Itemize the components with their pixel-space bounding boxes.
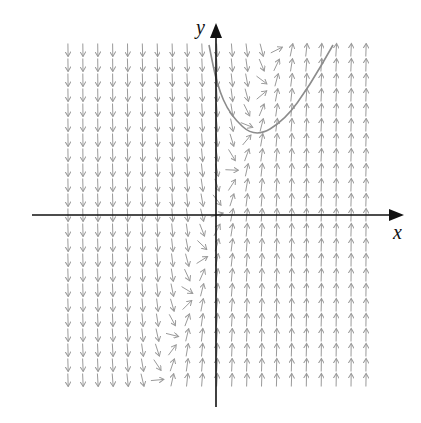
field-segment xyxy=(201,179,203,192)
field-segment xyxy=(214,224,220,236)
field-segment xyxy=(261,299,262,312)
solution-curve xyxy=(209,45,333,133)
field-segment xyxy=(186,344,188,357)
field-segment xyxy=(291,194,292,207)
field-segment xyxy=(321,44,322,57)
field-segment xyxy=(187,164,188,177)
field-segment xyxy=(156,329,159,342)
field-segment xyxy=(351,74,352,87)
field-segment xyxy=(351,59,352,72)
field-segment xyxy=(142,314,143,327)
field-segment xyxy=(202,89,203,102)
field-segment xyxy=(127,359,128,372)
field-segment xyxy=(275,89,277,102)
field-segment xyxy=(172,254,174,267)
field-segment xyxy=(247,299,248,312)
field-segment xyxy=(276,104,278,117)
field-segment xyxy=(261,314,262,327)
field-segment xyxy=(202,59,203,72)
field-segment xyxy=(112,299,113,312)
field-segment xyxy=(172,194,173,207)
y-axis-label: y xyxy=(196,16,205,39)
field-segment xyxy=(187,104,188,117)
field-segment xyxy=(185,269,190,281)
field-segment xyxy=(276,254,277,267)
field-segment xyxy=(201,164,202,177)
field-segment xyxy=(169,314,175,325)
field-segment xyxy=(306,179,307,192)
field-segment xyxy=(225,170,238,171)
field-segment xyxy=(201,299,203,312)
field-segment xyxy=(171,299,175,311)
field-segment xyxy=(259,104,264,116)
field-segment xyxy=(187,89,188,102)
field-segment xyxy=(112,344,113,357)
field-segment xyxy=(261,194,262,207)
field-segment xyxy=(271,47,283,53)
field-segment xyxy=(187,134,188,147)
field-segment xyxy=(276,164,277,177)
field-segment xyxy=(172,239,173,252)
field-segment xyxy=(127,284,128,297)
field-segment xyxy=(172,134,173,147)
field-segment xyxy=(232,359,233,372)
field-segment xyxy=(247,329,248,342)
field-segment xyxy=(127,344,128,357)
field-segment xyxy=(202,149,203,162)
field-segment xyxy=(306,164,307,177)
field-segment xyxy=(306,44,307,57)
field-segment xyxy=(246,269,247,282)
field-segment xyxy=(321,134,322,147)
field-segment xyxy=(306,74,307,87)
field-segment xyxy=(247,344,248,357)
field-segment xyxy=(142,254,143,267)
field-segment xyxy=(202,104,203,117)
direction-field-diagram xyxy=(0,0,421,423)
field-segment xyxy=(187,119,188,132)
field-segment xyxy=(156,314,158,327)
field-segment xyxy=(231,119,234,132)
field-segment xyxy=(127,224,128,237)
field-segment xyxy=(245,164,248,177)
field-segment xyxy=(291,164,292,177)
field-segment xyxy=(127,239,128,252)
field-segment xyxy=(201,284,204,297)
field-segment xyxy=(127,269,128,282)
field-segment xyxy=(231,74,232,87)
field-segment xyxy=(274,59,280,71)
field-segment xyxy=(142,329,143,342)
field-segment xyxy=(142,284,143,297)
field-segment xyxy=(230,194,234,206)
field-segment xyxy=(261,269,262,282)
field-segment xyxy=(171,374,174,387)
field-segment xyxy=(261,239,262,252)
field-segment xyxy=(112,374,113,387)
field-segment xyxy=(187,374,188,387)
field-segment xyxy=(83,374,84,387)
field-segment xyxy=(98,359,99,372)
field-segment xyxy=(168,345,176,355)
field-segment xyxy=(186,254,189,267)
field-segment xyxy=(172,104,173,117)
field-segment xyxy=(182,287,193,294)
field-segment xyxy=(112,269,113,282)
field-segment xyxy=(245,149,249,161)
field-segment xyxy=(201,314,203,327)
field-segment xyxy=(261,284,262,297)
field-segment xyxy=(246,239,247,252)
field-segment xyxy=(257,76,267,84)
field-segment xyxy=(351,44,352,57)
field-segment xyxy=(231,44,232,57)
field-segment xyxy=(157,239,158,252)
field-segment xyxy=(291,59,293,72)
field-segment xyxy=(246,59,248,72)
field-segment xyxy=(186,329,189,342)
field-segment xyxy=(291,134,292,147)
field-segment xyxy=(172,224,173,237)
field-segment xyxy=(142,299,143,312)
field-segment xyxy=(127,314,128,327)
field-segment xyxy=(276,224,277,237)
field-segment xyxy=(306,59,307,72)
x-axis xyxy=(32,209,404,221)
field-segment xyxy=(246,74,248,87)
